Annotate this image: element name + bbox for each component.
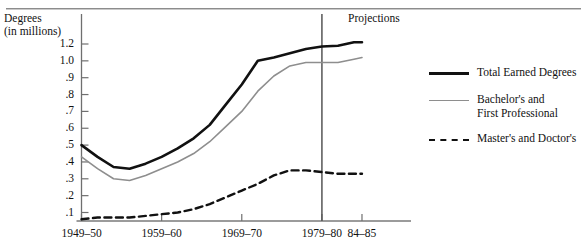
x-tick-label: 1949–50 — [42, 227, 122, 239]
legend-item[interactable]: Bachelor's and First Professional — [429, 93, 585, 120]
chart-canvas: Degrees (in millions) Projections 1.21.0… — [0, 0, 587, 252]
y-tick-label: 1.2 — [26, 38, 74, 50]
x-tick-label: 84–85 — [322, 227, 402, 239]
legend-item[interactable]: Total Earned Degrees — [429, 66, 585, 81]
legend-label: Bachelor's and First Professional — [477, 93, 585, 120]
legend-swatch-icon — [429, 72, 469, 75]
y-tick-label: .6 — [26, 122, 74, 134]
y-tick-label: .8 — [26, 89, 74, 101]
y-tick-label: .1 — [26, 207, 74, 219]
tick-marks — [82, 44, 362, 221]
y-tick-label: .5 — [26, 139, 74, 151]
y-tick-label: .4 — [26, 156, 74, 168]
series-line — [82, 42, 362, 168]
series-line — [82, 170, 362, 219]
data-series — [82, 42, 362, 219]
y-tick-label: .2 — [26, 190, 74, 202]
legend-label: Total Earned Degrees — [477, 66, 585, 80]
y-tick-label: 1.0 — [26, 55, 74, 67]
chart-legend: Total Earned DegreesBachelor's and First… — [429, 66, 585, 159]
legend-swatch-icon — [429, 100, 469, 102]
legend-item[interactable]: Master's and Doctor's — [429, 132, 585, 147]
series-line — [82, 57, 362, 180]
x-tick-label: 1959–60 — [122, 227, 202, 239]
legend-swatch-icon — [429, 139, 469, 141]
y-tick-label: .7 — [26, 105, 74, 117]
legend-label: Master's and Doctor's — [477, 132, 585, 146]
y-tick-label: .9 — [26, 72, 74, 84]
y-tick-label: .3 — [26, 173, 74, 185]
x-tick-label: 1969–70 — [202, 227, 282, 239]
